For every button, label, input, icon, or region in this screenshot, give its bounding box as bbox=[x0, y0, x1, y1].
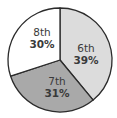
slice-label-8th-pct: 30% bbox=[29, 38, 55, 50]
slice-label-6th-name: 6th bbox=[77, 42, 94, 54]
pie-chart: 6th 39% 7th 31% 8th 30% bbox=[0, 0, 117, 118]
slice-label-7th-name: 7th bbox=[48, 75, 65, 87]
pie-chart-svg: 6th 39% 7th 31% 8th 30% bbox=[0, 0, 117, 118]
slice-label-8th-name: 8th bbox=[33, 26, 50, 38]
slice-label-6th-pct: 39% bbox=[73, 54, 99, 66]
slice-label-7th-pct: 31% bbox=[44, 87, 70, 99]
